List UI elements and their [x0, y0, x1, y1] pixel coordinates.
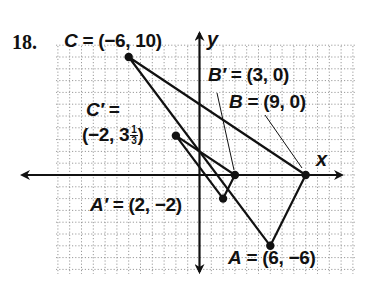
- label-A: A = (6, −6): [228, 247, 316, 269]
- vertex-A-prime: [219, 194, 227, 202]
- label-A-prime-coords: = (2, −2): [108, 194, 182, 215]
- label-C-prime-line2: (−2, 313): [82, 124, 144, 146]
- x-axis-label: x: [316, 148, 327, 171]
- y-axis-label: y: [207, 28, 218, 51]
- label-A-prime: A′ = (2, −2): [90, 194, 182, 216]
- label-B-letter: B: [229, 91, 242, 112]
- label-B-coords: = (9, 0): [242, 91, 305, 112]
- label-B: B = (9, 0): [229, 91, 306, 113]
- fraction-one-third: 13: [130, 125, 137, 146]
- vertex-B-prime: [231, 171, 239, 179]
- vertex-C: [125, 53, 133, 61]
- label-C-coords: = (−6, 10): [77, 30, 161, 51]
- label-C-prime-eq: =: [104, 99, 120, 120]
- triangle-A-prime-B-prime-C-prime: [176, 136, 235, 199]
- label-C-prime-line1: C′ =: [86, 99, 119, 121]
- problem-number: 18.: [12, 31, 37, 54]
- fraction-denominator: 3: [130, 136, 137, 146]
- vertex-C-prime: [172, 131, 180, 139]
- label-C-prime-letter: C′: [86, 99, 104, 120]
- coordinate-plane-figure: 18. C = (−6, 10) y x B′ = (3, 0) B = (9,…: [0, 0, 370, 290]
- label-B-prime: B′ = (3, 0): [208, 64, 289, 86]
- label-B-prime-letter: B′: [208, 64, 226, 85]
- label-C-prime-close: ): [138, 124, 144, 145]
- label-C: C = (−6, 10): [64, 30, 162, 52]
- label-A-prime-letter: A′: [90, 194, 108, 215]
- label-A-letter: A: [228, 247, 241, 268]
- label-A-coords: = (6, −6): [241, 247, 315, 268]
- label-C-letter: C: [64, 30, 77, 51]
- label-B-prime-coords: = (3, 0): [226, 64, 289, 85]
- vertex-B: [302, 171, 310, 179]
- label-C-prime-coords: (−2, 3: [82, 124, 129, 145]
